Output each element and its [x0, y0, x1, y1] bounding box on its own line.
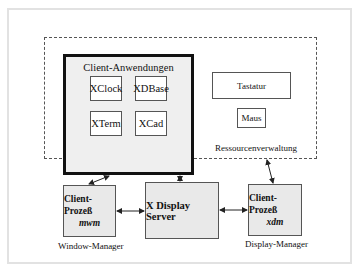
connection-arrows	[0, 0, 359, 274]
arrow-resources-to-display-manager	[267, 160, 273, 183]
arrow-clients-to-window-manager	[89, 176, 109, 184]
